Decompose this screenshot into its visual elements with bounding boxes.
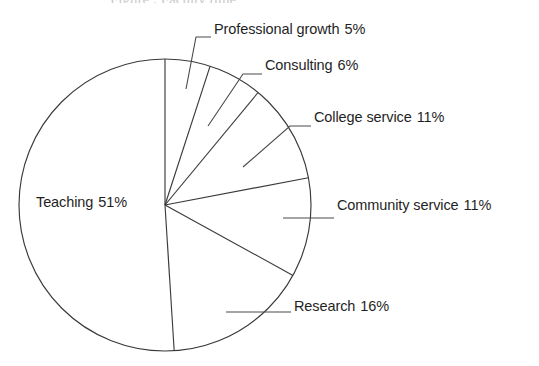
slice-label-text: Research — [294, 298, 355, 314]
slice-value-text: 51% — [98, 194, 127, 210]
slice-label-community-service: Community service11% — [337, 198, 491, 213]
pie-chart-figure: Figure : Faculty time Professional growt… — [0, 0, 539, 366]
slice-label-research: Research16% — [294, 299, 389, 314]
slice-label-teaching: Teaching51% — [36, 195, 127, 210]
slice-value-text: 11% — [464, 197, 492, 213]
slice-label-consulting: Consulting6% — [265, 58, 358, 73]
slice-label-text: Community service — [337, 197, 459, 213]
pie-chart-canvas — [0, 0, 539, 366]
slice-label-professional-growth: Professional growth5% — [214, 22, 365, 37]
slice-label-text: Teaching — [36, 194, 93, 210]
slice-value-text: 16% — [360, 298, 389, 314]
slice-label-college-service: College service11% — [314, 110, 444, 125]
slice-value-text: 11% — [417, 109, 445, 125]
slice-value-text: 6% — [338, 57, 359, 73]
slice-value-text: 5% — [344, 21, 365, 37]
slice-label-text: Professional growth — [214, 21, 339, 37]
slice-label-text: College service — [314, 109, 412, 125]
slice-label-text: Consulting — [265, 57, 333, 73]
